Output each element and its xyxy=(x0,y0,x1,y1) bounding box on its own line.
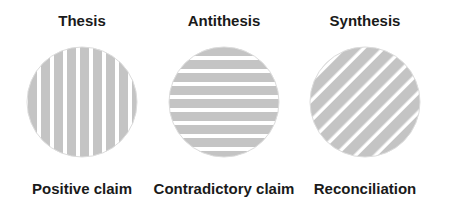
synthesis-title: Synthesis xyxy=(290,12,440,29)
antithesis-title: Antithesis xyxy=(149,12,299,29)
synthesis-circle-diagonal-stripes xyxy=(309,46,421,158)
thesis-title: Thesis xyxy=(7,12,157,29)
thesis-panel: Thesis Positive claim xyxy=(7,0,157,205)
antithesis-panel: Antithesis Contradictory claim xyxy=(149,0,299,205)
thesis-circle-vertical-stripes xyxy=(26,46,138,158)
antithesis-circle-horizontal-stripes xyxy=(168,46,280,158)
synthesis-caption: Reconciliation xyxy=(280,180,449,197)
synthesis-panel: Synthesis Reconciliation xyxy=(290,0,440,205)
